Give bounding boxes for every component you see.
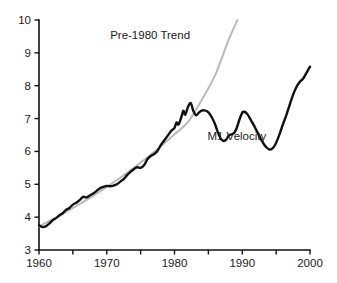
x-tick-label-1980: 1980 xyxy=(162,257,188,269)
y-tick-label-3: 3 xyxy=(25,244,31,256)
chart-container: 345678910 19601970198019902000 Pre-1980 … xyxy=(0,0,337,283)
y-tick-label-4: 4 xyxy=(25,211,32,223)
y-tick-label-8: 8 xyxy=(25,80,31,92)
y-tick-label-10: 10 xyxy=(18,14,31,26)
x-tick-label-2000: 2000 xyxy=(297,257,323,269)
y-tick-label-6: 6 xyxy=(25,145,31,157)
series-label-pre-1980-trend: Pre-1980 Trend xyxy=(110,29,190,41)
x-tick-label-1970: 1970 xyxy=(94,257,120,269)
plot-background xyxy=(0,0,337,283)
x-tick-label-1990: 1990 xyxy=(229,257,255,269)
series-label-m1-velocity: M1 Velocity xyxy=(207,130,266,142)
y-tick-label-7: 7 xyxy=(25,113,31,125)
x-tick-label-1960: 1960 xyxy=(26,257,52,269)
line-chart: 345678910 19601970198019902000 Pre-1980 … xyxy=(0,0,337,283)
y-tick-label-5: 5 xyxy=(25,178,31,190)
y-tick-label-9: 9 xyxy=(25,47,31,59)
